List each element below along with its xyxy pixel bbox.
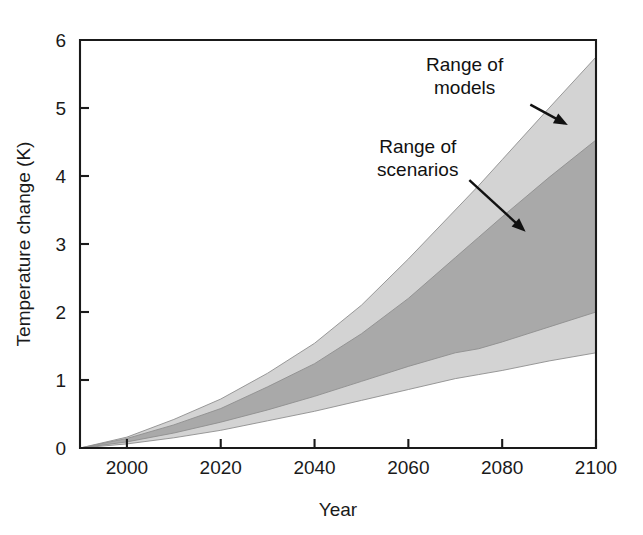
y-tick-label-6: 6 — [55, 30, 66, 51]
y-tick-label-1: 1 — [55, 370, 66, 391]
x-tick-label-2080: 2080 — [481, 457, 523, 478]
y-tick-label-2: 2 — [55, 302, 66, 323]
x-axis-title: Year — [319, 499, 358, 520]
x-tick-label-2020: 2020 — [200, 457, 242, 478]
x-tick-label-2060: 2060 — [387, 457, 429, 478]
y-tick-label-4: 4 — [55, 166, 66, 187]
x-tick-label-2040: 2040 — [293, 457, 335, 478]
y-tick-label-5: 5 — [55, 98, 66, 119]
temperature-projection-chart: 200020202040206020802100 0123456 Year Te… — [0, 0, 643, 535]
y-tick-label-3: 3 — [55, 234, 66, 255]
x-tick-label-2000: 2000 — [106, 457, 148, 478]
figure-container: 200020202040206020802100 0123456 Year Te… — [0, 0, 643, 535]
x-tick-label-2100: 2100 — [575, 457, 617, 478]
y-tick-label-0: 0 — [55, 438, 66, 459]
y-axis-title: Temperature change (K) — [13, 142, 34, 347]
